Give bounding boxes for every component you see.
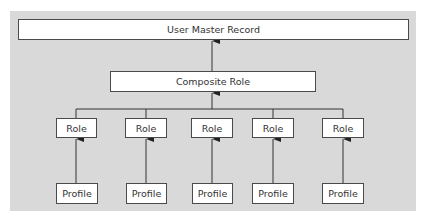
user-master-record-box: User Master Record [18,19,409,40]
role-box: Role [322,118,364,138]
role-label: Role [202,123,222,134]
role-box: Role [56,118,97,138]
role-box: Role [125,118,167,138]
profile-label: Profile [132,188,162,199]
role-box: Role [252,118,294,138]
profile-box: Profile [252,183,294,204]
composite-role-box: Composite Role [110,71,316,92]
profile-box: Profile [192,183,233,204]
role-label: Role [136,123,156,134]
profile-label: Profile [198,188,228,199]
role-label: Role [333,123,353,134]
role-label: Role [66,123,86,134]
role-box: Role [191,118,233,138]
composite-role-label: Composite Role [176,76,250,87]
profile-box: Profile [322,183,364,204]
profile-box: Profile [56,183,98,204]
profile-label: Profile [258,188,288,199]
profile-label: Profile [328,188,358,199]
role-label: Role [263,123,283,134]
profile-label: Profile [62,188,92,199]
profile-box: Profile [126,183,167,204]
user-master-record-label: User Master Record [167,24,260,35]
